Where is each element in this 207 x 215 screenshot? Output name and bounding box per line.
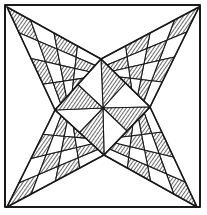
- quilt-star-drawing: [0, 0, 207, 215]
- hatched-diamond: [60, 65, 75, 81]
